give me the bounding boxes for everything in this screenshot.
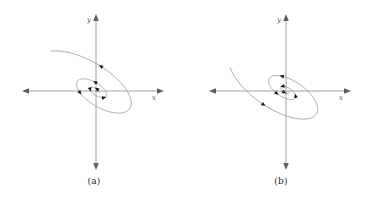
phase-portrait-figure: x y (a) x y <box>0 0 375 208</box>
y-axis-down-arrow-icon-b <box>283 163 289 170</box>
x-axis-right-arrow-icon-a <box>157 88 164 94</box>
x-axis-label-b: x <box>339 94 343 102</box>
panel-b-plot: x y <box>187 0 375 180</box>
spiral-curve-b <box>230 68 317 119</box>
panel-a: x y (a) <box>0 0 188 208</box>
x-axis-right-arrow-icon-b <box>344 88 351 94</box>
x-axis-left-arrow-icon-a <box>22 88 29 94</box>
panel-a-plot: x y <box>0 0 188 180</box>
panel-a-trajectory <box>51 51 131 113</box>
panel-a-axes: x y <box>22 14 164 170</box>
panel-b-caption: (b) <box>187 176 375 186</box>
spiral-curve-a <box>51 51 131 113</box>
panel-b: x y (b) <box>187 0 375 208</box>
y-axis-label-a: y <box>86 16 92 24</box>
x-axis-left-arrow-icon-b <box>209 88 216 94</box>
y-axis-up-arrow-icon-b <box>283 14 289 21</box>
panel-b-axes: x y <box>209 14 351 170</box>
panel-a-caption: (a) <box>0 176 188 186</box>
spiral-direction-arrow-icon <box>99 65 104 69</box>
spiral-direction-arrow-icon <box>261 102 266 106</box>
y-axis-down-arrow-icon-a <box>93 163 99 170</box>
x-axis-label-a: x <box>152 94 156 102</box>
y-axis-up-arrow-icon-a <box>93 14 99 21</box>
y-axis-label-b: y <box>276 16 282 24</box>
spiral-direction-arrow-icon <box>280 75 284 79</box>
panel-b-trajectory <box>230 68 317 119</box>
